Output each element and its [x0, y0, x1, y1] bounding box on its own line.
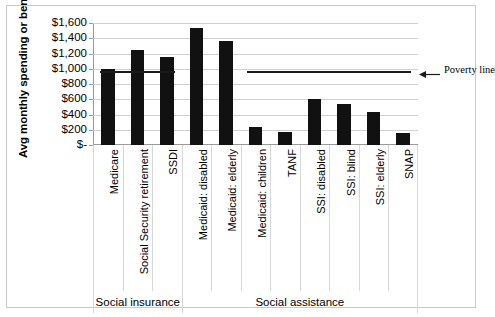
y-tick-mark — [89, 54, 93, 55]
x-tick-label: Medicare — [108, 126, 120, 171]
category-label-cell: SSDI — [152, 145, 182, 291]
category-label-cell: Medicaid: elderly — [211, 145, 241, 291]
x-tick-label: Medicaid: disabled — [197, 103, 209, 194]
y-tick-label: $200 — [9, 124, 87, 135]
gridline — [93, 38, 418, 39]
category-label-cell: SSI: disabled — [300, 145, 330, 291]
poverty-line-label: Poverty line — [444, 64, 495, 75]
x-tick-label: Medicaid: elderly — [226, 108, 238, 191]
y-tick-label: $1,000 — [9, 63, 87, 74]
category-label-cell: Social Security retirement — [123, 145, 153, 291]
group-label-band: Social insuranceSocial assistance — [93, 291, 418, 313]
x-tick-label: SSDI — [167, 136, 179, 162]
chart-frame: Avg monthly spending or benefit Medicare… — [6, 5, 476, 308]
group-label: Social insurance — [93, 291, 182, 313]
y-tick-label: $- — [9, 139, 87, 150]
y-tick-mark — [89, 130, 93, 131]
category-label-cell: Medicare — [93, 145, 123, 291]
x-tick-label: TANF — [286, 135, 298, 163]
y-tick-label: $1,400 — [9, 32, 87, 43]
y-tick-mark — [89, 23, 93, 24]
x-tick-label: SSI: elderly — [374, 121, 386, 177]
y-tick-mark — [89, 84, 93, 85]
poverty-line-segment — [100, 71, 176, 73]
gridline — [93, 23, 418, 24]
y-tick-mark — [89, 38, 93, 39]
category-label-cell: Medicaid: children — [241, 145, 271, 291]
y-tick-label: $600 — [9, 93, 87, 104]
category-label-cell: Medicaid: disabled — [182, 145, 212, 291]
x-tick-label: Medicaid: children — [256, 105, 268, 194]
category-label-cell: SNAP — [388, 145, 418, 291]
y-tick-label: $400 — [9, 109, 87, 120]
y-tick-mark — [89, 69, 93, 70]
poverty-line-arrow-icon — [419, 66, 441, 84]
category-label-cell: SSI: blind — [329, 145, 359, 291]
poverty-line-segment — [247, 71, 411, 73]
category-label-cell: TANF — [270, 145, 300, 291]
y-tick-mark — [89, 115, 93, 116]
group-label: Social assistance — [182, 291, 418, 313]
x-tick-label: SSI: disabled — [315, 117, 327, 182]
category-label-cell: SSI: elderly — [359, 145, 389, 291]
y-tick-mark — [89, 99, 93, 100]
y-tick-label: $1,600 — [9, 17, 87, 28]
x-tick-label: Social Security retirement — [138, 86, 150, 211]
y-tick-label: $800 — [9, 78, 87, 89]
x-tick-label: SNAP — [403, 134, 415, 164]
category-label-band: MedicareSocial Security retirementSSDIMe… — [93, 145, 418, 291]
y-tick-label: $1,200 — [9, 48, 87, 59]
x-tick-label: SSI: blind — [345, 125, 357, 172]
